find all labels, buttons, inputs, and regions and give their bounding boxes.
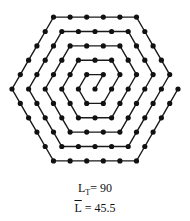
spiral-node: [34, 43, 39, 48]
spiral-node: [68, 158, 73, 163]
spiral-node: [117, 15, 122, 20]
spiral-node: [51, 72, 56, 77]
total-length-label: LT= 90: [0, 181, 190, 197]
spiral-node: [51, 158, 56, 163]
spiral-node: [76, 115, 81, 120]
spiral-node: [109, 29, 114, 34]
spiral-node: [142, 58, 147, 63]
spiral-node: [151, 130, 156, 135]
spiral-node: [101, 72, 106, 77]
spiral-node: [126, 144, 131, 149]
spiral-node: [117, 158, 122, 163]
spiral-node: [84, 101, 89, 106]
spiral-node: [159, 115, 164, 120]
spiral-node: [134, 158, 139, 163]
spiral-node: [18, 101, 23, 106]
spiral-node: [26, 86, 31, 91]
spiral-node: [59, 144, 64, 149]
spiral-node: [142, 144, 147, 149]
spiral-node: [109, 86, 114, 91]
spiral-node: [175, 86, 180, 91]
spiral-node: [167, 72, 172, 77]
spiral-node: [84, 72, 89, 77]
spiral-node: [101, 15, 106, 20]
spiral-node: [84, 15, 89, 20]
spiral-node: [26, 115, 31, 120]
spiral-node: [134, 15, 139, 20]
spiral-node: [92, 58, 97, 63]
spiral-node: [51, 15, 56, 20]
spiral-node: [68, 43, 73, 48]
spiral-node: [34, 130, 39, 135]
spiral-node: [151, 43, 156, 48]
spiral-node: [26, 58, 31, 63]
spiral-node: [18, 72, 23, 77]
spiral-node: [84, 158, 89, 163]
spiral-node: [126, 29, 131, 34]
spiral-node: [92, 86, 97, 91]
spiral-node: [51, 43, 56, 48]
spiral-node: [126, 58, 131, 63]
spiral-node: [134, 101, 139, 106]
spiral-node: [167, 101, 172, 106]
spiral-node: [68, 72, 73, 77]
spiral-node: [126, 86, 131, 91]
spiral-node: [126, 115, 131, 120]
spiral-node: [59, 58, 64, 63]
spiral-node: [109, 115, 114, 120]
spiral-node: [43, 58, 48, 63]
spiral-node: [151, 101, 156, 106]
spiral-node: [59, 29, 64, 34]
spiral-node: [109, 58, 114, 63]
spiral-node: [43, 86, 48, 91]
spiral-node: [68, 101, 73, 106]
spiral-node: [43, 115, 48, 120]
hexagonal-spiral-diagram: [0, 0, 190, 170]
spiral-node: [84, 43, 89, 48]
spiral-node: [9, 86, 14, 91]
spiral-node: [76, 144, 81, 149]
spiral-node: [159, 58, 164, 63]
spiral-node: [76, 86, 81, 91]
spiral-node: [43, 144, 48, 149]
spiral-node: [92, 29, 97, 34]
spiral-node: [34, 72, 39, 77]
spiral-node: [76, 58, 81, 63]
spiral-node: [92, 115, 97, 120]
spiral-node: [117, 101, 122, 106]
mean-length-label: L = 45.5: [0, 201, 190, 216]
spiral-node: [68, 15, 73, 20]
spiral-node: [68, 130, 73, 135]
spiral-node: [101, 101, 106, 106]
spiral-node: [142, 115, 147, 120]
spiral-node: [142, 86, 147, 91]
spiral-node: [43, 29, 48, 34]
spiral-node: [142, 29, 147, 34]
spiral-node: [51, 130, 56, 135]
spiral-node: [101, 130, 106, 135]
spiral-node: [101, 158, 106, 163]
spiral-node: [134, 72, 139, 77]
spiral-node: [76, 29, 81, 34]
spiral-node: [51, 101, 56, 106]
spiral-node: [109, 144, 114, 149]
spiral-node: [59, 115, 64, 120]
spiral-node: [117, 72, 122, 77]
spiral-node: [117, 43, 122, 48]
spiral-node: [34, 101, 39, 106]
spiral-node: [151, 72, 156, 77]
spiral-node: [101, 43, 106, 48]
spiral-node: [117, 130, 122, 135]
spiral-node: [59, 86, 64, 91]
spiral-node: [134, 130, 139, 135]
spiral-node: [84, 130, 89, 135]
spiral-node: [134, 43, 139, 48]
spiral-node: [159, 86, 164, 91]
spiral-node: [92, 144, 97, 149]
